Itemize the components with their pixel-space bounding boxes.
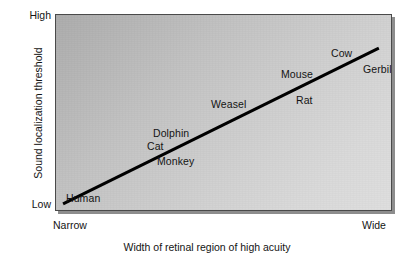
point-label-mouse: Mouse	[281, 69, 313, 80]
y-axis-title: Sound localization threshold	[32, 13, 44, 213]
point-label-human: Human	[66, 193, 100, 204]
point-label-cat: Cat	[147, 141, 164, 152]
point-label-monkey: Monkey	[157, 156, 194, 167]
point-label-cow: Cow	[331, 48, 352, 59]
x-axis-title: Width of retinal region of high acuity	[0, 241, 414, 253]
trend-line-svg	[56, 15, 392, 211]
plot-area: Human Monkey Cat Dolphin Weasel Rat Mous…	[55, 14, 392, 211]
x-axis-tick-narrow: Narrow	[53, 219, 87, 231]
chart-figure: Human Monkey Cat Dolphin Weasel Rat Mous…	[0, 0, 414, 264]
point-label-gerbil: Gerbil	[363, 64, 392, 75]
point-label-rat: Rat	[296, 95, 313, 106]
trend-line	[63, 48, 379, 204]
x-axis-tick-wide: Wide	[362, 219, 386, 231]
point-label-weasel: Weasel	[211, 99, 246, 110]
point-label-dolphin: Dolphin	[153, 128, 189, 139]
